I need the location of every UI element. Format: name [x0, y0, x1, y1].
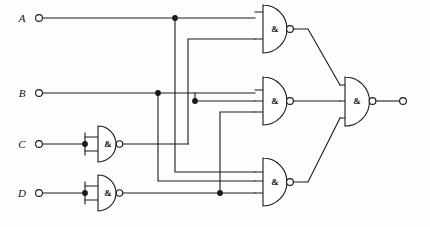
gate-mid-label: & — [271, 96, 279, 106]
input-label-a: A — [18, 12, 26, 24]
gate-out-input-stubs — [340, 85, 345, 118]
wire-top-gate-to-output-gate — [293, 29, 340, 85]
gate-bot-label: & — [271, 177, 279, 187]
logic-circuit-diagram: A B C D & & & & & & — [0, 0, 430, 227]
gate-mid-input-stubs — [255, 90, 263, 112]
wire-bot-gate-to-output-gate — [293, 118, 340, 182]
input-terminal-b[interactable] — [36, 90, 43, 97]
wire-b-branch-to-mid-gate — [195, 93, 255, 101]
input-label-b: B — [19, 87, 26, 99]
junction-dot-d — [82, 190, 88, 196]
gate-out-output-bubble — [369, 98, 376, 105]
gate-c-inverter-output-bubble — [116, 141, 122, 147]
gate-top-output-bubble — [287, 26, 294, 33]
gate-top-label: & — [271, 24, 279, 34]
junction-dot-b1 — [155, 90, 161, 96]
gate-bot-input-stubs — [255, 172, 263, 193]
gate-top-input-stubs — [255, 12, 263, 39]
gate-d-inverter-label: & — [104, 188, 112, 198]
wire-a-branch-to-bottom-gate — [175, 18, 255, 172]
output-terminal[interactable] — [400, 98, 407, 105]
input-terminal-a[interactable] — [36, 15, 43, 22]
wire-cbar-to-top-gate — [188, 39, 255, 144]
gate-bot-output-bubble — [287, 179, 294, 186]
input-terminal-d[interactable] — [36, 190, 43, 197]
input-label-c: C — [18, 138, 26, 150]
junction-dot-a — [172, 15, 178, 21]
wire-b-branch-to-bottom-gate — [158, 93, 255, 181]
diagram-canvas: A B C D & & & & & & — [0, 0, 430, 227]
input-label-d: D — [17, 187, 26, 199]
gate-out-label: & — [353, 96, 361, 106]
gate-c-inverter-label: & — [104, 139, 112, 149]
gate-d-inverter-output-bubble — [116, 190, 122, 196]
junction-dot-b2 — [192, 98, 198, 104]
gate-mid-output-bubble — [287, 98, 294, 105]
junction-dot-dbar — [217, 190, 223, 196]
input-terminal-c[interactable] — [36, 141, 43, 148]
junction-dot-c — [82, 141, 88, 147]
